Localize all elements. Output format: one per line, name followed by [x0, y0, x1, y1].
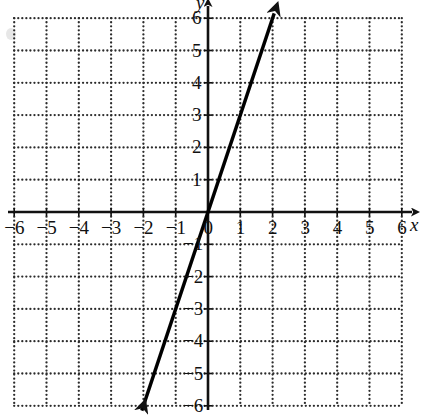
x-tick-label: −2 — [133, 218, 153, 237]
y-tick-label: 2 — [192, 137, 202, 156]
y-axis-label: y — [196, 0, 204, 12]
y-tick-label: 3 — [192, 105, 202, 124]
x-tick-label: −3 — [101, 218, 121, 237]
y-tick-label: 5 — [192, 41, 202, 60]
y-tick-label: 4 — [192, 73, 202, 92]
x-tick-label: 5 — [365, 218, 375, 237]
x-tick-label: −4 — [69, 218, 89, 237]
y-tick-label: −6 — [183, 396, 203, 415]
graph-figure: −6−5−4−3−2−10123456 654321−1−2−3−4−5−6 x… — [0, 0, 429, 417]
x-tick-label: 0 — [204, 218, 214, 237]
coordinate-plane — [0, 0, 429, 417]
x-tick-label: 6 — [397, 218, 407, 237]
x-tick-label: 3 — [300, 218, 310, 237]
x-axis-label: x — [410, 215, 418, 234]
x-tick-label: 1 — [236, 218, 246, 237]
x-tick-label: 4 — [333, 218, 343, 237]
y-tick-label: −2 — [183, 267, 203, 286]
x-tick-label: −5 — [37, 218, 57, 237]
x-tick-label: −6 — [4, 218, 24, 237]
y-tick-label: 1 — [192, 170, 202, 189]
x-tick-label: 2 — [268, 218, 278, 237]
y-tick-label: −4 — [183, 331, 203, 350]
y-tick-label: −3 — [183, 299, 203, 318]
y-tick-label: −1 — [183, 234, 203, 253]
y-tick-label: −5 — [183, 364, 203, 383]
